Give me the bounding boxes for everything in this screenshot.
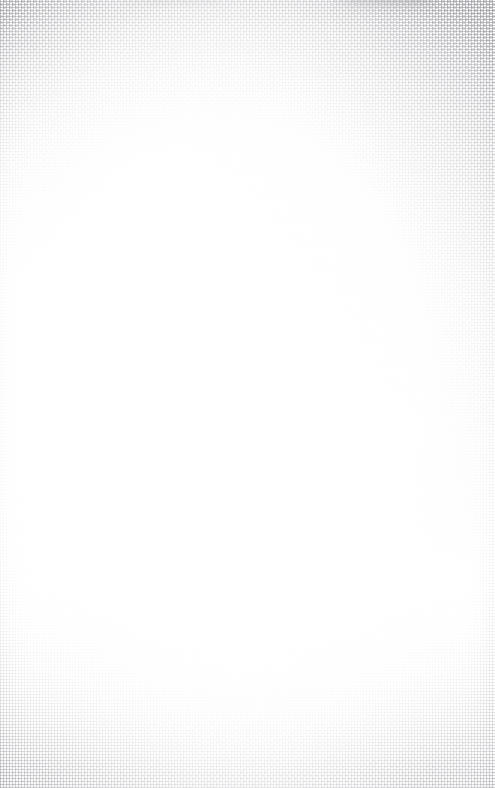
scanned-page bbox=[0, 0, 495, 788]
page-content-area bbox=[0, 0, 495, 788]
